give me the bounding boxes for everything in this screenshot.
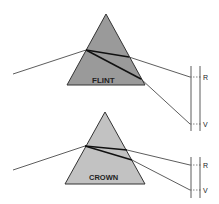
- flint-red-label: R: [203, 74, 208, 81]
- crown-prism-group: CROWN: [13, 112, 190, 190]
- flint-exit-violet-ray: [141, 79, 190, 124]
- prism-dispersion-diagram: FLINT R V CROWN R V: [0, 0, 219, 204]
- crown-violet-label: V: [203, 187, 208, 194]
- crown-incident-ray: [13, 146, 85, 170]
- flint-screen: R V: [190, 66, 208, 131]
- crown-screen: R V: [190, 157, 208, 198]
- flint-prism-group: FLINT: [13, 14, 190, 124]
- crown-red-label: R: [203, 162, 208, 169]
- crown-label: CROWN: [89, 173, 118, 182]
- flint-label: FLINT: [92, 76, 115, 85]
- flint-violet-label: V: [203, 121, 208, 128]
- crown-exit-violet-ray: [132, 160, 190, 190]
